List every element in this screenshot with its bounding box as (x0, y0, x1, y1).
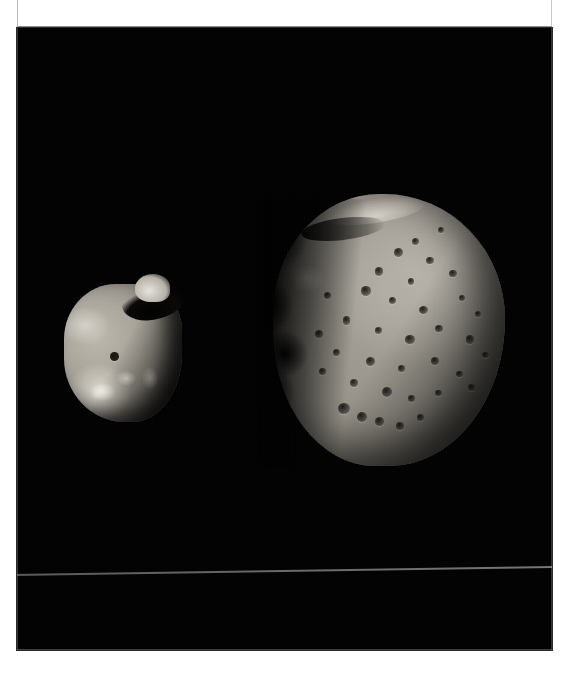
scanned-page: PHOBOS AND DEIMOS, THE TWO MOONS OF MARS (0, 0, 568, 679)
scanner-line-artifact (17, 566, 552, 576)
phobos-limb-shadow (273, 194, 505, 466)
plate-bottom-edge (17, 649, 552, 650)
moon-deimos (64, 284, 182, 422)
header-band: PHOBOS AND DEIMOS, THE TWO MOONS OF MARS (17, 0, 552, 27)
moon-phobos (273, 194, 505, 466)
photographic-plate (17, 28, 552, 650)
plate-right-edge (551, 28, 552, 650)
plate-left-edge (17, 28, 18, 650)
deimos-bright-knob (135, 274, 170, 302)
